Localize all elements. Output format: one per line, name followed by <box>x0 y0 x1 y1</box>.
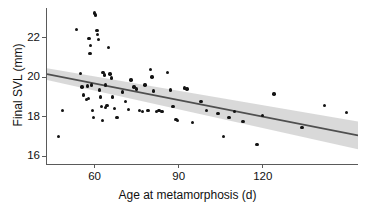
plot-area <box>47 6 358 164</box>
y-axis-tick <box>42 116 46 117</box>
data-point <box>80 85 83 88</box>
data-point <box>146 109 149 112</box>
y-axis-tick <box>42 37 46 38</box>
data-point <box>160 110 163 113</box>
data-point <box>129 78 132 81</box>
data-point <box>185 87 188 90</box>
data-point <box>272 92 275 95</box>
data-point <box>108 72 111 75</box>
data-point <box>115 116 118 119</box>
data-point <box>103 73 106 76</box>
data-point <box>143 83 146 86</box>
data-point <box>241 120 244 123</box>
y-axis-line <box>46 8 47 165</box>
data-point <box>82 93 85 96</box>
data-point <box>216 112 219 115</box>
data-point <box>227 116 230 119</box>
x-axis-tick <box>262 164 263 168</box>
x-axis-tick <box>178 164 179 168</box>
data-point <box>87 37 90 40</box>
x-axis-tick-label: 120 <box>243 170 283 182</box>
x-axis-tick <box>94 164 95 168</box>
data-point <box>300 126 303 129</box>
x-axis-title: Age at metamorphosis (d) <box>0 188 375 202</box>
data-point <box>152 89 155 92</box>
regression-line <box>47 74 358 135</box>
y-axis-title: Final SVL (mm) <box>11 15 25 155</box>
data-point <box>95 29 98 32</box>
scatter-plot-figure: 161820226090120 Age at metamorphosis (d)… <box>0 0 375 213</box>
data-point <box>150 75 153 78</box>
data-point <box>104 83 107 86</box>
data-point <box>255 143 258 146</box>
data-point <box>166 71 169 74</box>
data-point <box>88 52 91 55</box>
y-axis-tick <box>42 77 46 78</box>
regression-overlay <box>47 6 358 164</box>
data-point <box>121 90 124 93</box>
y-axis-tick <box>42 156 46 157</box>
data-point <box>169 88 172 91</box>
data-point <box>110 76 113 79</box>
data-point <box>98 88 101 91</box>
x-axis-tick-label: 90 <box>159 170 199 182</box>
x-axis-tick-label: 60 <box>75 170 115 182</box>
data-point <box>57 135 60 138</box>
data-point <box>86 84 89 87</box>
data-point <box>99 95 102 98</box>
